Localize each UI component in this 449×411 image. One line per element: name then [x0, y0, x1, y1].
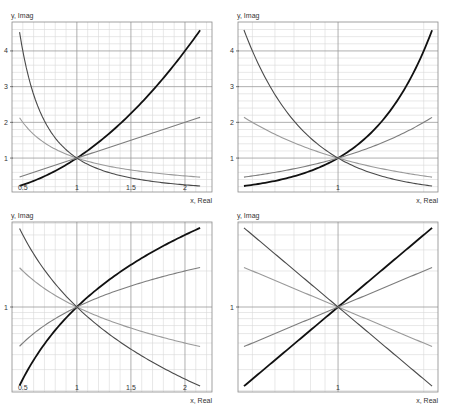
y-tick-label: 4 [230, 47, 234, 54]
y-tick-label: 1 [230, 304, 234, 311]
x-tick-label: 1.5 [126, 184, 136, 191]
y-axis-label: y, Imag [11, 12, 34, 20]
x-tick-label: 2 [183, 184, 187, 191]
x-axis-label: x, Real [190, 397, 212, 404]
chart-svg: 11y, Imagx, Real [226, 200, 449, 411]
tick-labels: 11 [230, 304, 340, 391]
grid [12, 222, 212, 392]
y-tick-label: 1 [4, 155, 8, 162]
x-tick-label: 0.5 [18, 184, 28, 191]
y-tick-label: 1 [230, 155, 234, 162]
y-axis-label: y, Imag [237, 212, 260, 220]
chart-logx-lineary: 11234y, Imagx, Real [226, 0, 449, 205]
x-tick-label: 1.5 [126, 384, 136, 391]
y-axis-label: y, Imag [11, 212, 34, 220]
tick-labels: 0.511.521234 [4, 47, 187, 191]
grid [238, 22, 438, 192]
y-axis-label: y, Imag [237, 12, 260, 20]
x-tick-label: 1 [75, 184, 79, 191]
x-tick-label: 1 [336, 184, 340, 191]
y-tick-label: 3 [4, 83, 8, 90]
x-tick-label: 0.5 [18, 384, 28, 391]
y-tick-label: 2 [4, 119, 8, 126]
tick-labels: 0.511.521 [4, 304, 187, 391]
series-line-1_x_2 [20, 32, 201, 186]
y-tick-label: 3 [230, 83, 234, 90]
x-tick-label: 1 [75, 384, 79, 391]
series-line-x [20, 117, 201, 177]
chart-linear-linear: 0.511.521234y, Imagx, Real [0, 0, 224, 205]
y-tick-label: 2 [230, 119, 234, 126]
chart-linearx-logy: 0.511.521y, Imagx, Real [0, 200, 224, 405]
chart-log-log: 11y, Imagx, Real [226, 200, 449, 405]
chart-svg: 0.511.521y, Imagx, Real [0, 200, 224, 411]
chart-svg: 11234y, Imagx, Real [226, 0, 449, 205]
x-axis-label: x, Real [416, 397, 438, 404]
y-tick-label: 4 [4, 47, 8, 54]
y-tick-label: 1 [4, 304, 8, 311]
x-tick-label: 1 [336, 384, 340, 391]
chart-svg: 0.511.521234y, Imagx, Real [0, 0, 224, 205]
x-tick-label: 2 [183, 384, 187, 391]
